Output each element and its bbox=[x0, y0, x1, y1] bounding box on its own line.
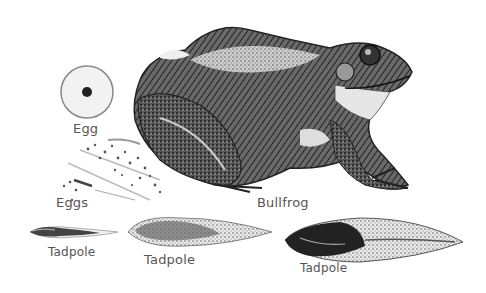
tadpole-3-label: Tadpole bbox=[300, 261, 347, 275]
eggs-mass-drawing bbox=[63, 140, 161, 202]
egg-drawing bbox=[61, 66, 113, 118]
egg-label: Egg bbox=[73, 121, 98, 136]
eggs-label: Eggs bbox=[56, 195, 88, 210]
frog-life-cycle-illustration: Egg Eggs Bullfrog Tadpole Tadpole Tadpol… bbox=[0, 0, 486, 293]
bullfrog-drawing bbox=[134, 28, 412, 193]
tadpole-1-drawing bbox=[30, 227, 118, 238]
tadpole-3-drawing bbox=[285, 218, 463, 262]
tadpole-2-drawing bbox=[128, 218, 272, 247]
tadpole-1-label: Tadpole bbox=[48, 245, 95, 259]
tadpole-2-label: Tadpole bbox=[144, 252, 195, 267]
bullfrog-label: Bullfrog bbox=[257, 195, 309, 210]
